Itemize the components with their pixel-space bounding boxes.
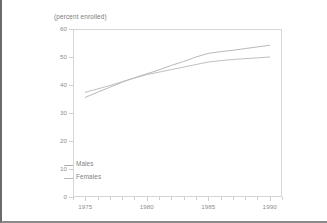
series-layer [2, 0, 327, 223]
legend-label-females: Females [76, 173, 101, 180]
series-line-females [85, 57, 269, 92]
legend-swatch-males [64, 165, 73, 166]
legend-item-females: Females [64, 173, 134, 186]
legend-label-males: Males [76, 160, 94, 167]
legend-swatch-females [64, 178, 73, 179]
legend-item-males: Males [64, 160, 134, 173]
series-line-males [85, 45, 269, 97]
line-chart: (percent enrolled) 0102030405060 1975198… [2, 0, 327, 223]
chart-legend: Males Females [64, 160, 134, 186]
chart-figure: (percent enrolled) 0102030405060 1975198… [0, 0, 327, 223]
